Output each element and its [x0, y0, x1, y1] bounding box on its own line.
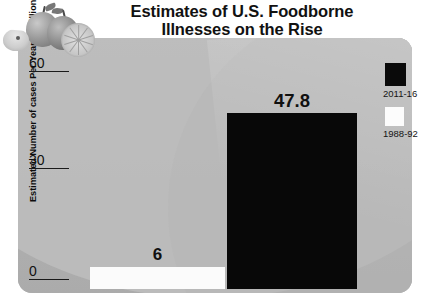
- legend-swatch-2011-16: [385, 63, 406, 86]
- bar-value-label-1988-92: 6: [90, 245, 225, 265]
- y-axis-tick-30: 30: [29, 153, 69, 169]
- legend-swatch-1988-92: [385, 107, 404, 126]
- chart-title: Estimates of U.S. Foodborne Illnesses on…: [72, 2, 412, 39]
- bar-value-label-2011-16: 47.8: [227, 90, 357, 112]
- chart-title-line-2: Illnesses on the Rise: [72, 20, 412, 38]
- y-axis-tick-0: 0: [29, 264, 69, 280]
- legend-label-2011-16: 2011-16: [383, 88, 431, 99]
- bar-2011-16: [227, 113, 357, 289]
- chart-legend: 2011-16 1988-92: [383, 63, 431, 139]
- chart-title-line-1: Estimates of U.S. Foodborne: [72, 2, 412, 20]
- apple-seed-icon: [16, 36, 20, 40]
- bar-1988-92: [90, 267, 225, 289]
- apple-slice-icon: [3, 29, 29, 51]
- citrus-half-icon: [61, 23, 95, 57]
- fruit-photo-icon: [0, 0, 100, 62]
- chart-figure: Estimates of U.S. Foodborne Illnesses on…: [0, 0, 431, 299]
- legend-spacer: [383, 99, 431, 107]
- legend-label-1988-92: 1988-92: [383, 128, 431, 139]
